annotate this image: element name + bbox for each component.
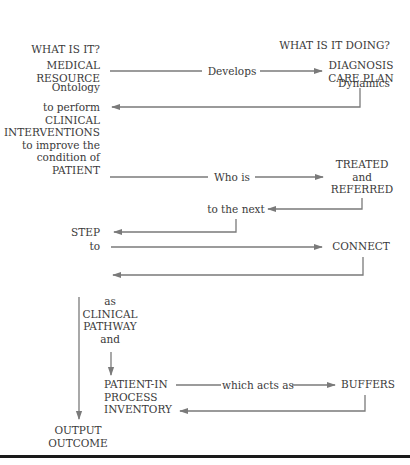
node-to: to <box>89 240 100 253</box>
arrow-treated-to-next <box>268 198 362 209</box>
edge-label-to-the-next: to the next <box>205 203 267 216</box>
node-buffers: BUFFERS <box>338 378 398 391</box>
node-diagnosis-care-plan: DIAGNOSIS CARE PLAN <box>326 59 396 84</box>
node-connect: CONNECT <box>328 240 394 253</box>
ontology-title: WHAT IS IT? <box>31 43 100 56</box>
arrow-next-to-step <box>114 219 236 232</box>
bottom-rule <box>0 455 410 458</box>
node-medical-resource: MEDICAL RESOURCE <box>36 59 100 84</box>
node-clinical-interventions: to perform CLINICAL INTERVENTIONS to imp… <box>4 101 100 177</box>
node-patient-in-process-inventory: PATIENT-IN PROCESS INVENTORY <box>104 378 172 416</box>
edge-label-which-acts-as: which acts as <box>222 379 292 392</box>
node-step: STEP <box>71 226 100 239</box>
edge-label-who-is: Who is <box>209 171 255 184</box>
node-treated-referred: TREATED and REFERRED <box>326 158 398 196</box>
arrow-connect-back <box>113 257 363 275</box>
node-clinical-pathway: as CLINICAL PATHWAY and <box>82 295 138 345</box>
dynamics-title: WHAT IS IT DOING? <box>279 39 390 52</box>
node-output-outcome: OUTPUT OUTCOME <box>48 424 108 449</box>
arrow-buffers-to-inventory <box>180 395 365 411</box>
edge-label-develops: Develops <box>203 65 261 78</box>
